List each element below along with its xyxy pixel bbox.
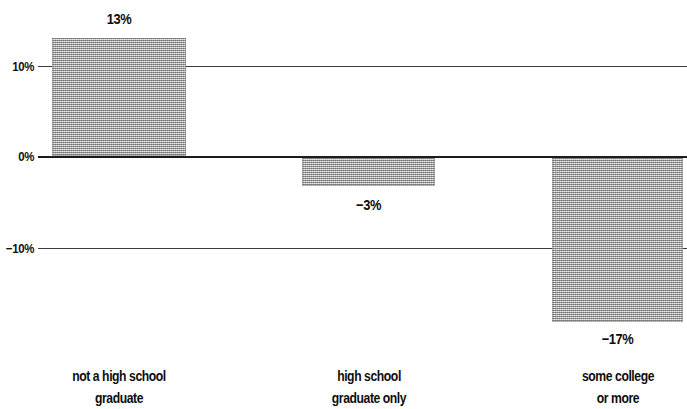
category-label-line-1: some college <box>582 368 654 384</box>
y-axis-label-negative-10-percent: −10% <box>4 241 34 256</box>
tick-mark-10-percent <box>38 66 48 67</box>
category-label-high-school-graduate-only: high school graduate only <box>304 365 433 409</box>
y-axis-label-0-percent: 0% <box>4 149 34 164</box>
category-label-some-college-or-more: some college or more <box>554 365 682 409</box>
category-label-line-2: graduate <box>54 387 183 409</box>
bar-value-label-high-school-graduate-only: −3% <box>311 196 425 213</box>
category-label-line-2: graduate only <box>304 387 433 409</box>
tick-mark-0-percent <box>38 156 48 158</box>
bar-high-school-graduate-only <box>302 158 435 186</box>
bar-value-label-some-college-or-more: −17% <box>561 330 674 347</box>
bar-some-college-or-more <box>552 158 683 322</box>
tick-mark-negative-10-percent <box>38 248 48 249</box>
y-axis-label-10-percent: 10% <box>4 59 34 74</box>
bar-not-a-high-school-graduate <box>52 38 186 156</box>
category-label-line-2: or more <box>554 387 682 409</box>
bar-chart: 10% 0% −10% 13% −3% −17% not a high scho… <box>0 0 687 409</box>
category-label-line-1: high school <box>337 368 401 384</box>
category-label-not-a-high-school-graduate: not a high school graduate <box>54 365 183 409</box>
bar-value-label-not-a-high-school-graduate: 13% <box>61 10 176 27</box>
category-label-line-1: not a high school <box>72 368 166 384</box>
